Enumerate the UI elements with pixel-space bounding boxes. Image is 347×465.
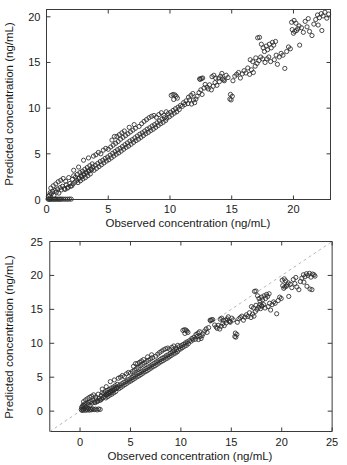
y-tick-label: 10 xyxy=(28,102,40,114)
y-tick-label: 0 xyxy=(34,194,40,206)
scatter-plot-top-svg: 0510152005101520 Observed concentration … xyxy=(0,0,347,232)
x-tick-label: 20 xyxy=(276,436,288,448)
y-tick-label: 0 xyxy=(37,405,43,417)
x-axis-title-top: Observed concentration (ng/mL) xyxy=(106,217,271,229)
data-point xyxy=(137,124,141,128)
y-tick-label: 20 xyxy=(31,269,43,281)
scatter-plot-bottom: 05101520250510152025 Observed concentrat… xyxy=(0,232,347,465)
x-tick-label: 10 xyxy=(175,436,187,448)
x-tick-label: 0 xyxy=(43,203,49,215)
data-points-top xyxy=(46,10,331,201)
scatter-plot-top: 0510152005101520 Observed concentration … xyxy=(0,0,347,232)
data-point xyxy=(285,49,289,53)
figure-container: 0510152005101520 Observed concentration … xyxy=(0,0,347,465)
y-tick-label: 10 xyxy=(31,337,43,349)
x-axis-title-bottom: Observed concentration (ng/mL) xyxy=(108,450,273,462)
axis-ticks-top xyxy=(47,10,331,200)
axis-tick-labels-bottom: 05101520250510152025 xyxy=(31,236,339,448)
data-point xyxy=(301,30,305,34)
data-point xyxy=(272,58,276,62)
y-tick-label: 20 xyxy=(28,11,40,23)
y-axis-title-bottom: Predicted concentration (ng/mL) xyxy=(3,255,15,419)
data-point xyxy=(81,158,85,162)
scatter-plot-bottom-labels: 05101520250510152025 Observed concentrat… xyxy=(0,232,347,465)
x-tick-label: 5 xyxy=(127,436,133,448)
data-point xyxy=(72,168,76,172)
x-tick-label: 0 xyxy=(77,436,83,448)
plot-frame-top xyxy=(47,10,331,200)
data-point xyxy=(305,25,309,29)
data-point xyxy=(127,125,131,129)
data-point xyxy=(310,33,314,37)
data-point xyxy=(238,76,242,80)
data-point xyxy=(275,62,279,66)
x-tick-label: 15 xyxy=(225,436,237,448)
data-point xyxy=(269,46,273,50)
data-point xyxy=(306,17,310,21)
x-tick-label: 15 xyxy=(226,203,238,215)
data-point xyxy=(307,29,311,33)
data-point xyxy=(312,22,316,26)
data-point xyxy=(283,66,287,70)
y-tick-label: 5 xyxy=(37,371,43,383)
data-point xyxy=(320,28,324,32)
x-tick-label: 25 xyxy=(326,436,338,448)
data-point xyxy=(231,79,235,83)
x-tick-label: 20 xyxy=(287,203,299,215)
data-point xyxy=(316,23,320,27)
y-tick-label: 25 xyxy=(31,236,43,248)
y-tick-label: 5 xyxy=(34,148,40,160)
data-point xyxy=(86,156,90,160)
data-point xyxy=(298,43,302,47)
y-axis-title-top: Predicted concentration (ng/mL) xyxy=(3,22,15,186)
y-tick-label: 15 xyxy=(31,303,43,315)
x-tick-label: 10 xyxy=(164,203,176,215)
x-tick-label: 5 xyxy=(105,203,111,215)
y-tick-label: 15 xyxy=(28,56,40,68)
data-point xyxy=(77,165,81,169)
